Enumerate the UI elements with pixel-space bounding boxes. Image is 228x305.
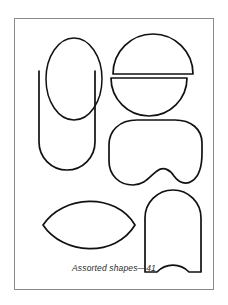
vertical-ellipse xyxy=(46,38,102,120)
lens-vesica-shape xyxy=(43,201,135,248)
figure-caption: Assorted shapes—41 xyxy=(15,263,213,273)
open-top-u-shape xyxy=(39,71,95,170)
figure-frame: Assorted shapes—41 xyxy=(14,18,214,290)
circle-lower-half xyxy=(111,78,187,116)
shape-canvas xyxy=(15,19,215,291)
figure-page: Assorted shapes—41 xyxy=(0,0,228,305)
circle-upper-half xyxy=(113,34,193,74)
kidney-bean-shape xyxy=(109,120,202,185)
arch-with-notch-shape xyxy=(145,190,201,272)
